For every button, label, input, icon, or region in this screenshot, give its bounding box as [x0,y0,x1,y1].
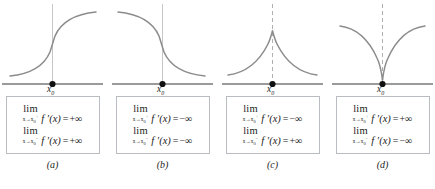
lim-subscript: x→x0+ [243,115,259,124]
limit-value: +∞ [69,114,82,124]
panel-a: x0 lim x→x0+ f ′(x) = +∞ lim x→x0− f ′(x… [0,0,105,189]
lim-subscript: x→x0− [133,137,149,146]
limit-left-c: lim x→x0− f ′(x) = +∞ [243,126,303,146]
lim-operator: lim x→x0− [353,126,369,146]
panel-label-b: (b) [157,159,169,170]
limit-right-d: lim x→x0+ f ′(x) = +∞ [353,104,413,124]
equals-sign: = [63,114,69,124]
curve-c-right [273,31,318,75]
panel-b: x0 lim x→x0+ f ′(x) = −∞ lim x→x0− f ′(x… [110,0,215,189]
plot-b: x0 [110,0,215,96]
formula-box-d: lim x→x0+ f ′(x) = +∞ lim x→x0− f ′(x) =… [336,96,430,154]
derivative-expression: f ′(x) [151,114,171,125]
lim-subscript: x→x0+ [133,115,149,124]
formula-box-c: lim x→x0+ f ′(x) = −∞ lim x→x0− f ′(x) =… [226,96,320,154]
derivative-expression: f ′(x) [41,136,61,147]
lim-subscript: x→x0− [353,137,369,146]
limit-value: −∞ [399,136,412,146]
curve-d-right [383,26,426,80]
curve-c-left [228,31,273,75]
lim-operator: lim x→x0− [23,126,39,146]
lim-operator: lim x→x0− [243,126,259,146]
derivative-expression: f ′(x) [261,136,281,147]
limit-value: +∞ [399,114,412,124]
plot-c: x0 [220,0,325,96]
panel-label-a: (a) [47,159,59,170]
limit-left-a: lim x→x0− f ′(x) = +∞ [23,126,83,146]
equals-sign: = [283,136,289,146]
equals-sign: = [173,136,179,146]
limit-right-b: lim x→x0+ f ′(x) = −∞ [133,104,193,124]
lim-operator: lim x→x0+ [243,104,259,124]
panel-label-c: (c) [267,159,278,170]
x0-axis-label-d: x0 [377,84,384,96]
limit-value: −∞ [179,114,192,124]
equals-sign: = [173,114,179,124]
equals-sign: = [63,136,69,146]
limit-left-b: lim x→x0− f ′(x) = −∞ [133,126,193,146]
plot-a: x0 [0,0,105,96]
limit-right-a: lim x→x0+ f ′(x) = +∞ [23,104,83,124]
lim-subscript: x→x0+ [353,115,369,124]
lim-subscript: x→x0− [23,137,39,146]
derivative-expression: f ′(x) [261,114,281,125]
limit-right-c: lim x→x0+ f ′(x) = −∞ [243,104,303,124]
plot-d: x0 [330,0,435,96]
panel-label-d: (d) [377,159,389,170]
derivative-expression: f ′(x) [41,114,61,125]
equals-sign: = [393,114,399,124]
derivative-expression: f ′(x) [151,136,171,147]
x0-axis-label-c: x0 [267,84,274,96]
formula-box-a: lim x→x0+ f ′(x) = +∞ lim x→x0− f ′(x) =… [6,96,100,154]
curve-d-left [340,26,383,80]
formula-box-b: lim x→x0+ f ′(x) = −∞ lim x→x0− f ′(x) =… [116,96,210,154]
limit-value: −∞ [289,114,302,124]
panel-d: x0 lim x→x0+ f ′(x) = +∞ lim x→x0− f ′(x… [330,0,435,189]
lim-operator: lim x→x0+ [133,104,149,124]
figure-container: x0 lim x→x0+ f ′(x) = +∞ lim x→x0− f ′(x… [0,0,435,189]
x0-axis-label-b: x0 [157,84,164,96]
lim-subscript: x→x0+ [23,115,39,124]
lim-operator: lim x→x0− [133,126,149,146]
equals-sign: = [393,136,399,146]
limit-value: +∞ [69,136,82,146]
derivative-expression: f ′(x) [371,136,391,147]
curve-b [118,12,205,76]
derivative-expression: f ′(x) [371,114,391,125]
lim-operator: lim x→x0+ [23,104,39,124]
lim-subscript: x→x0− [243,137,259,146]
lim-operator: lim x→x0+ [353,104,369,124]
panel-c: x0 lim x→x0+ f ′(x) = −∞ lim x→x0− f ′(x… [220,0,325,189]
equals-sign: = [283,114,289,124]
limit-left-d: lim x→x0− f ′(x) = −∞ [353,126,413,146]
limit-value: +∞ [289,136,302,146]
x0-axis-label-a: x0 [47,84,54,96]
limit-value: −∞ [179,136,192,146]
